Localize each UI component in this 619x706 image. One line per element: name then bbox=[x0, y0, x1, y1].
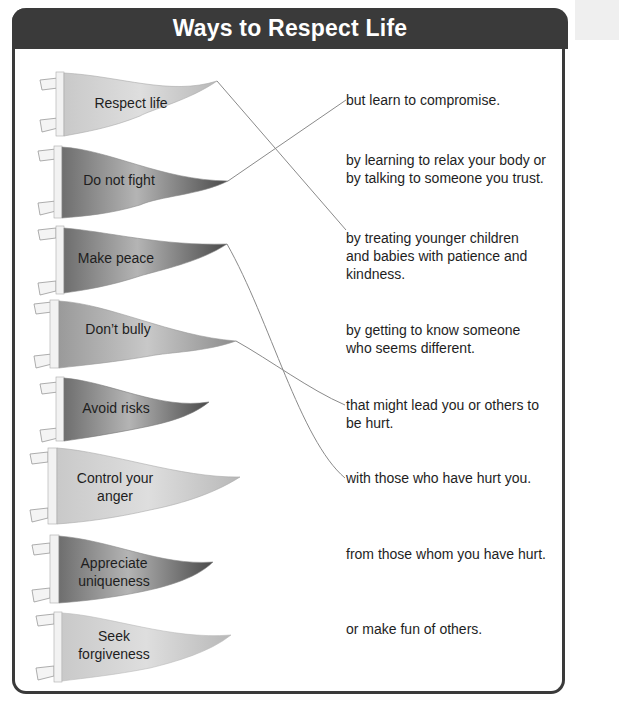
phrase-make-fun: or make fun of others. bbox=[346, 620, 561, 638]
page-corner-shade bbox=[575, 0, 619, 40]
phrase-line: but learn to compromise. bbox=[346, 91, 561, 109]
pennant-label-line: Respect life bbox=[66, 94, 196, 112]
phrase-compromise: but learn to compromise. bbox=[346, 91, 561, 109]
pennant-label-line: Don’t bully bbox=[62, 320, 174, 338]
pennant-label-line: Control your bbox=[60, 469, 170, 487]
pennant-label-control-your-anger: Control your anger bbox=[60, 469, 170, 505]
pennant-label-line: Seek bbox=[62, 627, 166, 645]
phrase-line: with those who have hurt you. bbox=[346, 469, 561, 487]
phrase-line: by getting to know someone bbox=[346, 321, 561, 339]
pennant-label-line: anger bbox=[60, 487, 170, 505]
pennant-label-line: Make peace bbox=[66, 249, 166, 267]
pennant-label-dont-bully: Don’t bully bbox=[62, 320, 174, 338]
page-title: Ways to Respect Life bbox=[173, 15, 407, 42]
pennant-label-line: Appreciate bbox=[62, 554, 166, 572]
pennant-label-line: forgiveness bbox=[62, 645, 166, 663]
pennant-label-seek-forgiveness: Seek forgiveness bbox=[62, 627, 166, 663]
phrase-line: that might lead you or others to bbox=[346, 396, 561, 414]
phrase-relax: by learning to relax your body or by tal… bbox=[346, 151, 561, 187]
phrase-line: by treating younger children bbox=[346, 229, 561, 247]
phrase-those-who-hurt-you: with those who have hurt you. bbox=[346, 469, 561, 487]
pennant-label-line: Do not fight bbox=[64, 171, 174, 189]
pennant-label-line: Avoid risks bbox=[66, 399, 166, 417]
phrase-line: and babies with patience and bbox=[346, 247, 561, 265]
phrase-know-someone: by getting to know someone who seems dif… bbox=[346, 321, 561, 357]
pennant-label-respect-life: Respect life bbox=[66, 94, 196, 112]
phrase-line: or make fun of others. bbox=[346, 620, 561, 638]
phrase-line: by talking to someone you trust. bbox=[346, 169, 561, 187]
pennant-label-avoid-risks: Avoid risks bbox=[66, 399, 166, 417]
pennant-label-appreciate-uniqueness: Appreciate uniqueness bbox=[62, 554, 166, 590]
phrase-younger-children: by treating younger children and babies … bbox=[346, 229, 561, 283]
phrase-those-you-hurt: from those whom you have hurt. bbox=[346, 545, 561, 563]
phrase-line: who seems different. bbox=[346, 339, 561, 357]
pennant-label-do-not-fight: Do not fight bbox=[64, 171, 174, 189]
pennant-label-line: uniqueness bbox=[62, 572, 166, 590]
phrase-line: be hurt. bbox=[346, 414, 561, 432]
phrase-line: by learning to relax your body or bbox=[346, 151, 561, 169]
worksheet-header: Ways to Respect Life bbox=[12, 8, 568, 49]
phrase-lead-to-hurt: that might lead you or others to be hurt… bbox=[346, 396, 561, 432]
phrase-line: kindness. bbox=[346, 265, 561, 283]
pennant-label-make-peace: Make peace bbox=[66, 249, 166, 267]
phrase-line: from those whom you have hurt. bbox=[346, 545, 561, 563]
